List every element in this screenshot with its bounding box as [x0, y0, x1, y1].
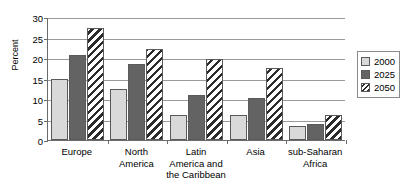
bar-2050	[87, 28, 104, 140]
legend-item-2050[interactable]: 2050	[361, 81, 395, 94]
y-tick-label: 5	[38, 115, 43, 126]
plot-area: 051015202530	[47, 18, 345, 141]
x-category-label-line: the Caribbean	[148, 169, 244, 181]
bar-2000	[110, 89, 127, 140]
bar-2050	[266, 68, 283, 140]
x-category-label-line: America and	[148, 158, 244, 170]
y-tick-label: 30	[32, 13, 43, 24]
bar-group	[170, 18, 224, 140]
x-category-label: sub-SaharanAfrica	[267, 146, 363, 169]
y-tick-label: 25	[32, 33, 43, 44]
y-tick-mark	[44, 100, 48, 101]
y-tick-mark	[44, 39, 48, 40]
y-tick-mark	[44, 59, 48, 60]
x-tick-mark	[286, 140, 287, 144]
y-tick-mark	[44, 18, 48, 19]
y-tick-mark	[44, 80, 48, 81]
x-category-label-line: sub-Saharan	[267, 146, 363, 158]
legend-label: 2050	[374, 82, 395, 93]
bar-2025	[248, 98, 265, 140]
bar-2000	[289, 126, 306, 140]
x-tick-mark	[346, 140, 347, 144]
bar-group	[110, 18, 164, 140]
y-tick-label: 20	[32, 54, 43, 65]
bar-2025	[307, 124, 324, 140]
legend-label: 2000	[374, 56, 395, 67]
legend-swatch-2050	[361, 83, 370, 92]
x-tick-mark	[108, 140, 109, 144]
bar-group	[51, 18, 105, 140]
y-axis-title: Percent	[10, 20, 20, 90]
x-category-label-line: Africa	[267, 158, 363, 170]
bar-group	[289, 18, 343, 140]
legend-label: 2025	[374, 69, 395, 80]
bar-2025	[128, 64, 145, 140]
y-tick-label: 0	[38, 136, 43, 147]
y-tick-mark	[44, 141, 48, 142]
legend-swatch-2000	[361, 57, 370, 66]
bar-2025	[188, 95, 205, 140]
bar-2050	[325, 115, 342, 140]
bar-2000	[170, 115, 187, 140]
x-tick-mark	[167, 140, 168, 144]
bar-2050	[206, 59, 223, 140]
bar-chart: Percent 051015202530 200020252050 Europe…	[0, 0, 415, 192]
legend-item-2025[interactable]: 2025	[361, 68, 395, 81]
bar-2000	[230, 115, 247, 140]
bar-2050	[146, 49, 163, 140]
y-tick-mark	[44, 121, 48, 122]
legend-swatch-2025	[361, 70, 370, 79]
chart-legend: 200020252050	[357, 51, 400, 98]
x-tick-mark	[227, 140, 228, 144]
bar-2000	[51, 79, 68, 140]
y-tick-label: 15	[32, 74, 43, 85]
y-tick-label: 10	[32, 95, 43, 106]
legend-item-2000[interactable]: 2000	[361, 55, 395, 68]
bar-group	[230, 18, 284, 140]
bar-2025	[69, 55, 86, 140]
